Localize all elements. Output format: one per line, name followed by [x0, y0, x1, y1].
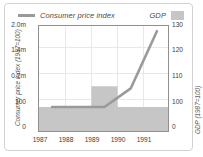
- left-tick-label: 1.4m: [11, 46, 26, 53]
- plot-area: [38, 25, 169, 132]
- gdp-area-series: [39, 86, 169, 132]
- right-tick-label: 0: [172, 123, 176, 130]
- chart-svg: [39, 26, 169, 132]
- legend-line-marker-icon: [18, 14, 35, 17]
- right-tick-label: 100: [172, 98, 183, 105]
- legend-area-swatch-icon: [171, 11, 184, 20]
- right-axis-title: GDP (1987=100): [194, 86, 198, 134]
- left-tick-label: 2.0m: [11, 21, 26, 28]
- right-tick-label: 120: [172, 46, 183, 53]
- chart-legend: Consumer price index GDP: [5, 8, 192, 22]
- right-tick-label: 110: [172, 72, 183, 79]
- left-tick-label: 0.7m: [11, 72, 26, 79]
- legend-item-gdp[interactable]: GDP: [149, 8, 184, 22]
- legend-label-gdp: GDP: [149, 11, 166, 20]
- right-tick-label: 130: [172, 21, 183, 28]
- legend-item-consumer-price-index[interactable]: Consumer price index: [18, 8, 115, 22]
- chart-card: Consumer price index GDP Consumer price …: [4, 3, 193, 151]
- left-tick-label: 100: [15, 98, 26, 105]
- legend-label-consumer-price-index: Consumer price index: [40, 11, 115, 20]
- x-tick-label: 1991: [129, 136, 159, 143]
- left-tick-label: 0: [22, 123, 26, 130]
